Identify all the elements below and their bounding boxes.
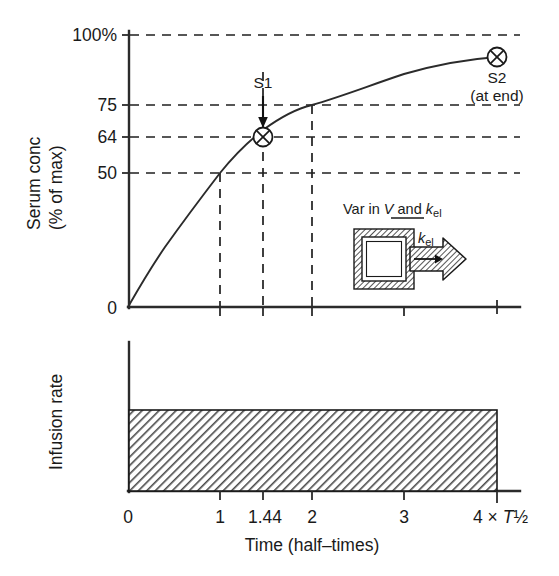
ytick-label-0: 0 bbox=[107, 298, 117, 318]
s2-label: S2 bbox=[488, 69, 507, 86]
y-axis-title-line2: (% of max) bbox=[46, 145, 66, 230]
y-axis-title-line1: Serum conc bbox=[24, 136, 44, 230]
xtick-4-frac: ½ bbox=[513, 507, 528, 527]
xtick-label-0: 0 bbox=[123, 507, 133, 527]
ytick-label-50: 50 bbox=[98, 163, 118, 183]
infusion-rate-area bbox=[129, 410, 497, 491]
ytick-label-64: 64 bbox=[98, 127, 118, 147]
xtick-label-4-thalf: 4 × T½ bbox=[473, 507, 528, 527]
xtick-4-prefix: 4 × bbox=[473, 507, 503, 527]
pharmacokinetics-figure: 100% 75 64 50 0 Serum conc (% of max) S2… bbox=[0, 0, 559, 576]
inset-caption: Var in V and kel bbox=[343, 201, 442, 219]
marker-s1 bbox=[254, 128, 273, 147]
xtick-label-3: 3 bbox=[399, 507, 409, 527]
ytick-label-75: 75 bbox=[98, 95, 117, 115]
y-axis-title-infusion: Infusion rate bbox=[46, 374, 66, 470]
s1-label: S1 bbox=[254, 74, 273, 91]
xtick-label-1: 1 bbox=[215, 507, 225, 527]
s2-sublabel: (at end) bbox=[470, 87, 523, 104]
x-axis-title: Time (half–times) bbox=[245, 535, 380, 555]
chart-svg: 100% 75 64 50 0 Serum conc (% of max) S2… bbox=[0, 0, 559, 576]
ytick-label-100: 100% bbox=[72, 25, 117, 45]
xtick-label-2: 2 bbox=[307, 507, 317, 527]
xtick-label-1-44: 1.44 bbox=[248, 507, 282, 527]
compartment-box-icon bbox=[354, 229, 414, 289]
marker-s2 bbox=[488, 48, 507, 67]
